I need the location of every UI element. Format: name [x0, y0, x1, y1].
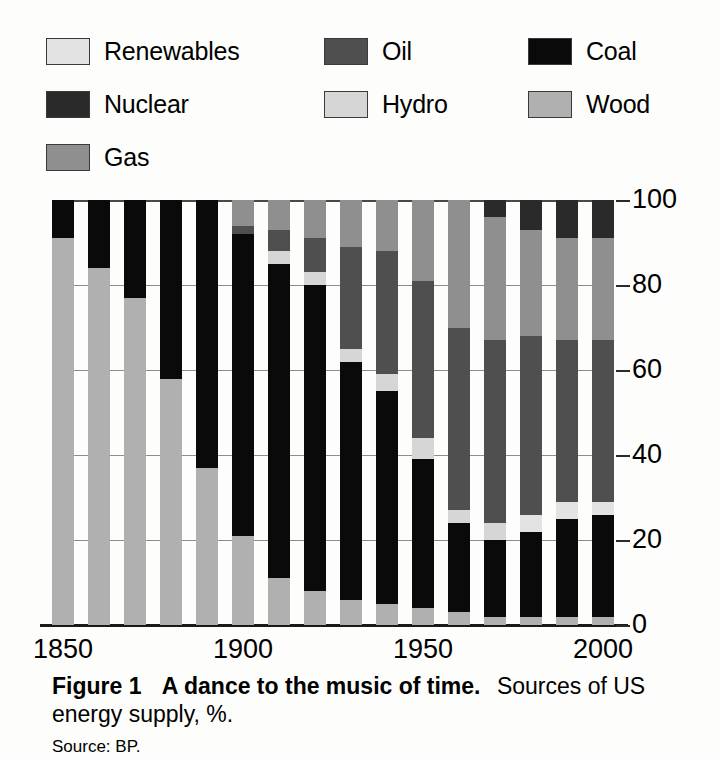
bar-1990[interactable]	[556, 200, 578, 625]
bar-segment-1940-gas	[376, 200, 398, 251]
bar-segment-1980-oil	[520, 336, 542, 515]
y-tick-mark-80	[616, 285, 630, 287]
bar-segment-1900-coal	[232, 234, 254, 536]
bar-1970[interactable]	[484, 200, 506, 625]
bar-segment-2000-gas	[592, 238, 614, 340]
bar-segment-1970-nuclear	[484, 200, 506, 217]
bar-series-container	[52, 200, 614, 625]
bar-segment-2000-wood	[592, 617, 614, 626]
bar-segment-1900-wood	[232, 536, 254, 625]
bar-1930[interactable]	[340, 200, 362, 625]
bar-segment-1980-gas	[520, 230, 542, 336]
bar-segment-1990-coal	[556, 519, 578, 617]
bar-segment-1930-coal	[340, 362, 362, 600]
bar-segment-2000-nuclear	[592, 200, 614, 238]
bar-segment-1960-coal	[448, 523, 470, 612]
bar-segment-1950-coal	[412, 459, 434, 608]
bar-1870[interactable]	[124, 200, 146, 625]
bar-segment-1870-coal	[124, 200, 146, 298]
bar-segment-1850-wood	[52, 238, 74, 625]
bar-1960[interactable]	[448, 200, 470, 625]
bar-segment-1960-wood	[448, 612, 470, 625]
bar-1940[interactable]	[376, 200, 398, 625]
caption-line-2: energy supply, %.	[52, 700, 692, 728]
bar-segment-2000-renewables	[592, 502, 614, 515]
figure-caption: Figure 1 A dance to the music of time. S…	[52, 672, 692, 757]
bar-segment-1860-coal	[88, 200, 110, 268]
bar-segment-1980-wood	[520, 617, 542, 626]
bar-segment-1900-oil	[232, 226, 254, 235]
bar-segment-1940-coal	[376, 391, 398, 604]
bar-segment-1850-coal	[52, 200, 74, 238]
y-tick-label-20: 20	[632, 526, 662, 553]
bar-segment-1990-renewables	[556, 502, 578, 519]
bar-segment-1950-wood	[412, 608, 434, 625]
y-tick-label-100: 100	[632, 186, 677, 213]
bar-1890[interactable]	[196, 200, 218, 625]
y-tick-mark-20	[616, 540, 630, 542]
y-tick-label-80: 80	[632, 271, 662, 298]
bar-segment-1950-oil	[412, 281, 434, 438]
bar-segment-1970-coal	[484, 540, 506, 617]
figure-page: RenewablesNuclearGasOilHydroCoalWood 020…	[0, 0, 720, 759]
bar-segment-2000-oil	[592, 340, 614, 502]
y-tick-label-60: 60	[632, 356, 662, 383]
bar-1860[interactable]	[88, 200, 110, 625]
bar-segment-1910-oil	[268, 230, 290, 251]
bar-segment-1910-wood	[268, 578, 290, 625]
bar-segment-1970-hydro	[484, 523, 506, 540]
bar-segment-1910-gas	[268, 200, 290, 230]
x-tick-label-1850: 1850	[33, 636, 93, 663]
bar-segment-1920-gas	[304, 200, 326, 238]
bar-segment-1990-gas	[556, 238, 578, 340]
caption-description-1: Sources of US	[497, 673, 645, 699]
bar-segment-1920-coal	[304, 285, 326, 591]
x-tick-label-1950: 1950	[393, 636, 453, 663]
bar-1880[interactable]	[160, 200, 182, 625]
bar-segment-1910-hydro	[268, 251, 290, 264]
bar-segment-1980-coal	[520, 532, 542, 617]
bar-segment-1950-gas	[412, 200, 434, 281]
bar-segment-1970-gas	[484, 217, 506, 340]
bar-segment-1940-wood	[376, 604, 398, 625]
bar-segment-1940-oil	[376, 251, 398, 374]
chart-area: 020406080100 1850190019502000	[0, 0, 720, 660]
bar-segment-1920-hydro	[304, 272, 326, 285]
y-tick-mark-40	[616, 455, 630, 457]
y-tick-label-40: 40	[632, 441, 662, 468]
bar-segment-1990-nuclear	[556, 200, 578, 238]
plot-area	[52, 200, 614, 625]
bar-segment-1980-nuclear	[520, 200, 542, 230]
bar-segment-1980-renewables	[520, 515, 542, 532]
bar-segment-1890-coal	[196, 200, 218, 468]
y-tick-mark-0	[616, 625, 630, 627]
bar-segment-1960-hydro	[448, 510, 470, 523]
bar-1910[interactable]	[268, 200, 290, 625]
bar-segment-1970-oil	[484, 340, 506, 523]
bar-segment-1930-hydro	[340, 349, 362, 362]
x-tick-label-1900: 1900	[213, 636, 273, 663]
bar-1980[interactable]	[520, 200, 542, 625]
figure-label: Figure 1	[52, 673, 141, 699]
bar-segment-1920-oil	[304, 238, 326, 272]
bar-1920[interactable]	[304, 200, 326, 625]
bar-segment-1950-hydro	[412, 438, 434, 459]
bar-segment-1880-coal	[160, 200, 182, 379]
bar-1850[interactable]	[52, 200, 74, 625]
bar-1950[interactable]	[412, 200, 434, 625]
bar-segment-1970-wood	[484, 617, 506, 626]
caption-line-1: Figure 1 A dance to the music of time. S…	[52, 672, 692, 700]
bar-segment-1930-oil	[340, 247, 362, 349]
y-tick-label-0: 0	[632, 611, 647, 638]
bar-segment-1880-wood	[160, 379, 182, 626]
bar-segment-1940-hydro	[376, 374, 398, 391]
bar-segment-1920-wood	[304, 591, 326, 625]
bar-segment-1890-wood	[196, 468, 218, 625]
bar-1900[interactable]	[232, 200, 254, 625]
bar-2000[interactable]	[592, 200, 614, 625]
bar-segment-1860-wood	[88, 268, 110, 625]
bar-segment-1910-coal	[268, 264, 290, 579]
bar-segment-1990-oil	[556, 340, 578, 502]
bar-segment-1870-wood	[124, 298, 146, 625]
bar-segment-1930-wood	[340, 600, 362, 626]
